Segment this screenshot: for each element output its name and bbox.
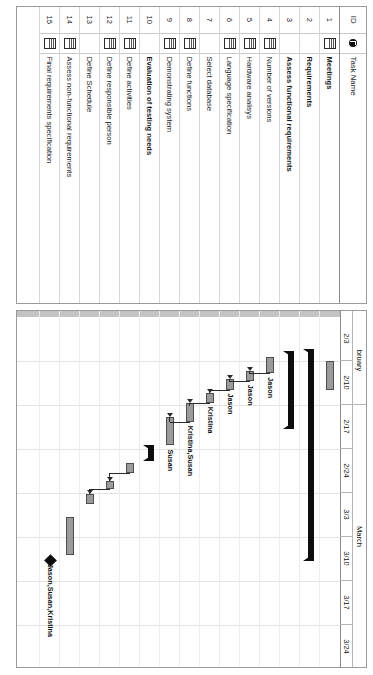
table-row[interactable]: 11Define activities xyxy=(120,7,140,304)
row-task-name[interactable]: Meetings xyxy=(320,53,340,304)
dependency-arrow-icon xyxy=(167,413,173,417)
row-indicator[interactable] xyxy=(160,33,180,53)
timescale-month: March xyxy=(353,405,366,668)
note-icon[interactable] xyxy=(124,38,136,49)
gantt-task-bar[interactable] xyxy=(326,361,334,390)
gantt-resource-label: Jason xyxy=(267,377,274,398)
table-row[interactable]: 14Assess non-functional requirements xyxy=(60,7,80,304)
column-header-id[interactable]: ID xyxy=(340,7,366,33)
gantt-task-bar[interactable] xyxy=(106,481,114,490)
row-indicator[interactable] xyxy=(280,33,300,53)
table-row[interactable]: 7Select database xyxy=(200,7,220,304)
table-row[interactable]: 2Requirements xyxy=(300,7,320,304)
row-indicator[interactable] xyxy=(320,33,340,53)
rotated-screenshot-frame: ID Task Name 1Meetings2Requirements3Asse… xyxy=(0,0,373,675)
row-task-name[interactable]: Define activities xyxy=(120,53,140,304)
task-table: ID Task Name 1Meetings2Requirements3Asse… xyxy=(40,7,367,304)
note-icon[interactable] xyxy=(244,38,256,49)
note-icon[interactable] xyxy=(164,38,176,49)
row-indicator[interactable] xyxy=(300,33,320,53)
row-indicator[interactable] xyxy=(40,33,60,53)
table-row[interactable]: 12Define responsible person xyxy=(100,7,120,304)
window-bottom-gutter xyxy=(0,0,5,675)
table-row[interactable]: 13Define Schedule xyxy=(80,7,100,304)
gantt-summary-bar[interactable] xyxy=(288,351,294,429)
row-task-name[interactable]: Demonstrating system xyxy=(160,53,180,304)
row-indicator[interactable] xyxy=(220,33,240,53)
dependency-link xyxy=(170,422,190,423)
timescale-tick: 3/10 xyxy=(340,537,353,581)
gantt-chart-pane[interactable]: bruaryMarch 2/32/102/172/243/33/103/173/… xyxy=(16,310,367,668)
row-task-name[interactable]: Assess functional requirements xyxy=(280,53,300,304)
row-task-name[interactable]: Define responsible person xyxy=(100,53,120,304)
chart-gridline-horizontal xyxy=(279,311,280,667)
row-id: 14 xyxy=(60,7,80,33)
row-task-name[interactable]: Evaluation of testing needs xyxy=(140,53,160,304)
row-indicator[interactable] xyxy=(200,33,220,53)
note-icon[interactable] xyxy=(64,38,76,49)
chart-gridline-horizontal xyxy=(199,311,200,667)
chart-gridline-horizontal xyxy=(319,311,320,667)
table-row[interactable]: 10Evaluation of testing needs xyxy=(140,7,160,304)
row-task-name[interactable]: Language specification xyxy=(220,53,240,304)
gantt-bar-area[interactable]: JasonJasonJasonKristinaKristina,SusanSus… xyxy=(16,310,340,668)
row-indicator[interactable] xyxy=(120,33,140,53)
row-task-name[interactable]: Final requirements specification xyxy=(40,53,60,304)
column-header-indicator[interactable] xyxy=(340,33,366,53)
column-header-task-name[interactable]: Task Name xyxy=(340,53,366,304)
note-icon[interactable] xyxy=(264,38,276,49)
note-icon[interactable] xyxy=(324,38,336,49)
chart-gridline-horizontal xyxy=(219,311,220,667)
note-icon[interactable] xyxy=(44,38,56,49)
note-icon[interactable] xyxy=(224,38,236,49)
gantt-summary-bar[interactable] xyxy=(308,349,314,562)
gantt-task-bar[interactable] xyxy=(66,517,74,554)
table-row[interactable]: 9Demonstrating system xyxy=(160,7,180,304)
gantt-task-bar[interactable] xyxy=(246,371,254,381)
row-task-name[interactable]: Assess non-functional requirements xyxy=(60,53,80,304)
row-indicator[interactable] xyxy=(240,33,260,53)
row-id: 12 xyxy=(100,7,120,33)
gantt-task-bar[interactable] xyxy=(186,403,194,421)
gantt-summary-bar[interactable] xyxy=(148,445,154,462)
table-row[interactable]: 4Number of versions xyxy=(260,7,280,304)
dependency-link xyxy=(229,379,230,382)
gantt-task-bar[interactable] xyxy=(206,393,214,403)
table-row[interactable]: 5Hardware analisys xyxy=(240,7,260,304)
row-task-name[interactable]: Requirements xyxy=(300,53,320,304)
row-task-name[interactable]: Define functions xyxy=(180,53,200,304)
table-header-row: ID Task Name xyxy=(340,7,366,304)
timescale-tick: 2/17 xyxy=(340,405,353,449)
dependency-link xyxy=(190,403,210,404)
note-icon[interactable] xyxy=(104,38,116,49)
row-indicator[interactable] xyxy=(140,33,160,53)
note-icon[interactable] xyxy=(184,38,196,49)
gantt-task-bar[interactable] xyxy=(86,494,94,504)
table-row[interactable]: 1Meetings xyxy=(320,7,340,304)
table-row[interactable]: 8Define functions xyxy=(180,7,200,304)
gantt-task-bar[interactable] xyxy=(266,357,274,374)
table-row[interactable]: 6Language specification xyxy=(220,7,240,304)
row-task-name[interactable]: Number of versions xyxy=(260,53,280,304)
row-task-name[interactable]: Define Schedule xyxy=(80,53,100,304)
task-grid-pane[interactable]: ID Task Name 1Meetings2Requirements3Asse… xyxy=(16,6,367,304)
timescale-tick: 3/24 xyxy=(340,625,353,668)
chart-gridline-horizontal xyxy=(139,311,140,667)
gantt-task-bar[interactable] xyxy=(126,463,134,473)
row-indicator[interactable] xyxy=(180,33,200,53)
chart-gridline-horizontal xyxy=(299,311,300,667)
timescale-tick: 2/10 xyxy=(340,361,353,405)
row-id: 2 xyxy=(300,7,320,33)
row-indicator[interactable] xyxy=(60,33,80,53)
table-row[interactable]: 3Assess functional requirements xyxy=(280,7,300,304)
table-row[interactable]: 15Final requirements specification xyxy=(40,7,60,304)
row-task-name[interactable]: Select database xyxy=(200,53,220,304)
row-task-name[interactable]: Hardware analisys xyxy=(240,53,260,304)
row-indicator[interactable] xyxy=(260,33,280,53)
dependency-link xyxy=(189,403,190,406)
row-indicator[interactable] xyxy=(80,33,100,53)
row-indicator[interactable] xyxy=(100,33,120,53)
dependency-arrow-icon xyxy=(107,477,113,481)
timescale-tick: 3/3 xyxy=(340,493,353,537)
dependency-link xyxy=(250,373,270,374)
